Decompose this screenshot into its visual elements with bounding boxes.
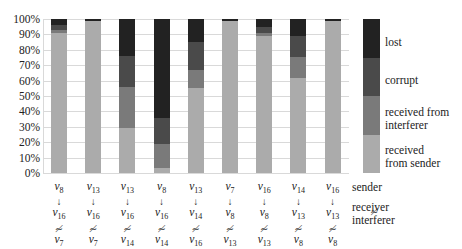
node-sender: v13 (179, 181, 213, 196)
node-interferer: v7 (76, 234, 110, 249)
down-arrow-icon: ↓ (316, 196, 350, 207)
y-tick-label: 10% (0, 152, 40, 164)
legend-swatch-corrupt (363, 58, 380, 97)
bar-2 (85, 19, 101, 173)
node-interferer: v13 (247, 234, 281, 249)
interference-icon: ≁ (110, 223, 144, 234)
bar-segment-lost (154, 19, 170, 118)
legend-label: corrupt (385, 74, 418, 87)
bar-segment-corrupt (119, 56, 135, 87)
y-tick-label: 20% (0, 136, 40, 148)
legend-swatch-received-from-sender (363, 135, 380, 174)
node-interferer: v8 (281, 234, 315, 249)
node-sender: v16 (316, 181, 350, 196)
x-axis-label: v7↓v8≁v13 (213, 181, 247, 249)
interference-icon: ≁ (370, 206, 378, 217)
interference-icon: ≁ (316, 223, 350, 234)
legend (363, 19, 380, 173)
bar-segment-received-from-sender (290, 78, 306, 173)
bar-segment-received-from-sender (256, 36, 272, 173)
legend-label: received from sender (385, 144, 440, 170)
node-receiver: v13 (316, 207, 350, 222)
node-sender: v16 (247, 181, 281, 196)
node-sender: v8 (145, 181, 179, 196)
down-arrow-icon: ↓ (76, 196, 110, 207)
y-tick-label: 100% (0, 13, 40, 25)
interference-icon: ≁ (247, 223, 281, 234)
node-interferer: v16 (179, 234, 213, 249)
node-receiver: v13 (281, 207, 315, 222)
x-axis-label: v14↓v13≁v8 (281, 181, 315, 249)
x-axis-label: v8↓v16≁v14 (145, 181, 179, 249)
bar-segment-corrupt (290, 36, 306, 58)
x-axis-label: v13↓v16≁v14 (110, 181, 144, 249)
y-tick-label: 70% (0, 59, 40, 71)
node-receiver: v14 (179, 207, 213, 222)
node-receiver: v16 (110, 207, 144, 222)
y-axis (43, 19, 44, 174)
bar-3 (119, 19, 135, 173)
down-arrow-icon: ↓ (145, 196, 179, 207)
legend-label: received from interferer (385, 106, 449, 132)
node-interferer: v13 (213, 234, 247, 249)
interference-icon: ≁ (179, 223, 213, 234)
bar-segment-received-from-sender (119, 128, 135, 173)
bar-segment-corrupt (188, 42, 204, 70)
bar-segment-received-from-interferer (290, 57, 306, 77)
down-arrow-icon: ↓ (42, 196, 76, 207)
bar-segment-lost (119, 19, 135, 56)
bar-segment-lost (256, 19, 272, 27)
node-interferer: v14 (145, 234, 179, 249)
bar-segment-received-from-interferer (188, 70, 204, 88)
interference-icon: ≁ (76, 223, 110, 234)
node-receiver: v16 (42, 207, 76, 222)
node-receiver: v16 (76, 207, 110, 222)
node-receiver: v8 (247, 207, 281, 222)
node-receiver: v8 (213, 207, 247, 222)
x-axis-label: v8↓v16≁v7 (42, 181, 76, 249)
y-tick-label: 90% (0, 28, 40, 40)
x-axis-label: v16↓v13≁v8 (316, 181, 350, 249)
bar-8 (290, 19, 306, 173)
bar-segment-received-from-sender (188, 88, 204, 173)
bar-segment-lost (188, 19, 204, 42)
bar-segment-lost (290, 19, 306, 36)
interference-icon: ≁ (213, 223, 247, 234)
bar-segment-received-from-interferer (154, 144, 170, 169)
interference-icon: ≁ (145, 223, 179, 234)
row-label-sender: sender (352, 181, 382, 193)
down-arrow-icon: ↓ (281, 196, 315, 207)
bar-6 (222, 19, 238, 173)
bar-4 (154, 19, 170, 173)
bar-segment-received-from-sender (222, 21, 238, 173)
y-tick-label: 40% (0, 105, 40, 117)
node-sender: v7 (213, 181, 247, 196)
down-arrow-icon: ↓ (179, 196, 213, 207)
legend-swatch-lost (363, 19, 380, 58)
bar-segment-received-from-sender (85, 21, 101, 173)
node-receiver: v16 (145, 207, 179, 222)
x-axis-label: v13↓v14≁v16 (179, 181, 213, 249)
interference-icon: ≁ (281, 223, 315, 234)
bar-1 (51, 19, 67, 173)
legend-swatch-received-from-interferer (363, 96, 380, 135)
node-sender: v13 (110, 181, 144, 196)
bar-segment-received-from-sender (325, 21, 341, 173)
bar-segment-received-from-interferer (119, 87, 135, 129)
node-interferer: v7 (42, 234, 76, 249)
y-tick-label: 0% (0, 167, 40, 179)
bar-segment-received-from-sender (154, 168, 170, 173)
x-axis-label: v13↓v16≁v7 (76, 181, 110, 249)
y-tick-label: 30% (0, 121, 40, 133)
node-sender: v13 (76, 181, 110, 196)
bar-7 (256, 19, 272, 173)
y-tick-label: 50% (0, 90, 40, 102)
node-sender: v14 (281, 181, 315, 196)
bar-9 (325, 19, 341, 173)
y-tick-label: 60% (0, 75, 40, 87)
bar-segment-corrupt (154, 118, 170, 144)
node-interferer: v8 (316, 234, 350, 249)
bar-5 (188, 19, 204, 173)
node-interferer: v14 (110, 234, 144, 249)
legend-label: lost (385, 36, 402, 49)
